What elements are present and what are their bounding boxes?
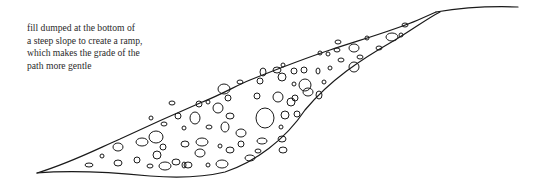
slope-line	[37, 12, 440, 177]
ramp-top-line	[37, 12, 436, 173]
fill-ramp-illustration	[0, 0, 548, 186]
ground-surface-line	[436, 7, 518, 12]
stones	[85, 23, 408, 170]
